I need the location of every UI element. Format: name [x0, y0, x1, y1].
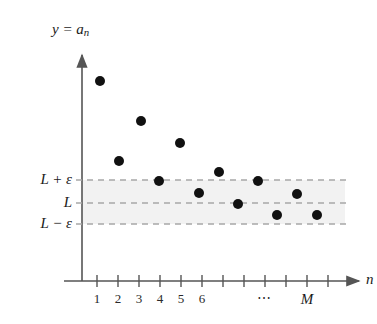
x-tick-label-M: M [293, 292, 321, 307]
data-point [136, 116, 146, 126]
data-point [154, 176, 164, 186]
axes [64, 55, 359, 281]
epsilon-band [82, 180, 345, 224]
data-point [253, 176, 263, 186]
data-point [175, 138, 185, 148]
epsilon-band-fill [82, 180, 345, 224]
x-axis-label: n [366, 272, 374, 287]
data-point [194, 188, 204, 198]
data-point [272, 210, 282, 220]
x-tick-label-6: 6 [188, 292, 216, 305]
x-tick-label-ellipsis: ⋯ [251, 292, 279, 306]
label-l-minus-epsilon: L − ε [0, 216, 72, 231]
data-point [233, 199, 243, 209]
data-point [214, 167, 224, 177]
y-axis-label-subscript: n [84, 26, 89, 38]
label-l-plus-epsilon: L + ε [0, 172, 72, 187]
y-axis-label-text: y = a [52, 21, 84, 37]
data-point [312, 210, 322, 220]
data-point [114, 156, 124, 166]
y-axis-label: y = an [52, 22, 89, 38]
data-point [292, 189, 302, 199]
data-point [95, 76, 105, 86]
figure-canvas [0, 0, 377, 324]
sequence-convergence-figure: y = an n L + ε L L − ε 123456⋯M [0, 0, 377, 324]
label-l: L [0, 195, 72, 210]
